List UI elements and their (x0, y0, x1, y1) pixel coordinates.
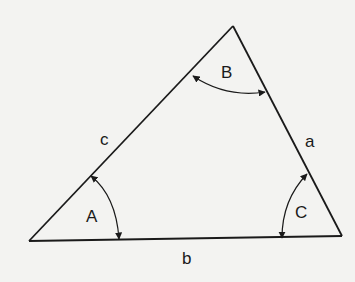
side-b-label: b (182, 249, 191, 268)
side-c-label: c (100, 130, 109, 149)
angle-c-label: C (295, 203, 307, 222)
angle-b-label: B (221, 63, 232, 82)
side-b-line (29, 236, 342, 241)
side-a-label: a (305, 132, 315, 151)
triangle-diagram: c a b B A C (0, 0, 355, 282)
angle-a-label: A (86, 207, 98, 226)
side-c-line (29, 26, 233, 241)
